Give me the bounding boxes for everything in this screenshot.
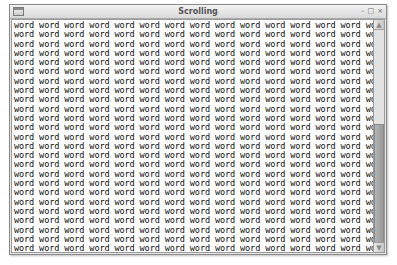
vertical-scrollbar[interactable]: ▲ ▼ xyxy=(373,19,385,253)
minimize-button[interactable]: – xyxy=(361,5,365,18)
scroll-trough[interactable] xyxy=(374,30,384,242)
title-bar[interactable]: Scrolling – □ × xyxy=(10,5,386,19)
scroll-up-button[interactable]: ▲ xyxy=(374,20,384,30)
close-button[interactable]: × xyxy=(377,5,383,18)
window-title: Scrolling xyxy=(10,5,386,18)
word-grid: word word word word word word word word … xyxy=(12,20,373,253)
text-line: word word word word word word word word … xyxy=(14,244,373,253)
scrollable-text-area[interactable]: word word word word word word word word … xyxy=(11,19,374,253)
scroll-thumb[interactable] xyxy=(374,124,384,244)
scroll-down-button[interactable]: ▼ xyxy=(374,242,384,252)
maximize-button[interactable]: □ xyxy=(368,5,375,18)
window-controls: – □ × xyxy=(361,5,383,18)
scrolling-window: Scrolling – □ × word word word word word… xyxy=(9,4,387,255)
